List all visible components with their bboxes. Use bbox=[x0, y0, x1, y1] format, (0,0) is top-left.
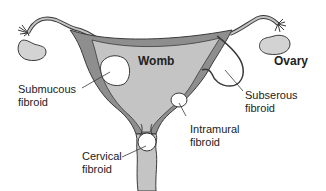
label-subserous-line2: fibroid bbox=[245, 102, 275, 114]
label-subserous-line1: Subserous bbox=[245, 89, 298, 101]
label-ovary: Ovary bbox=[274, 55, 308, 67]
label-intramural-line2: fibroid bbox=[190, 136, 220, 148]
right-ovary bbox=[260, 35, 290, 54]
submucous-fibroid bbox=[101, 56, 130, 86]
label-submucous-line1: Submucous bbox=[18, 83, 76, 95]
fibroid-diagram: Womb Ovary Submucous fibroid Subserous f… bbox=[0, 0, 326, 191]
left-ovary bbox=[18, 40, 46, 60]
label-submucous-line2: fibroid bbox=[18, 96, 48, 108]
label-intramural-line1: Intramural bbox=[190, 123, 240, 135]
intramural-fibroid bbox=[171, 93, 187, 107]
label-womb: Womb bbox=[138, 55, 174, 67]
label-cervical-line2: fibroid bbox=[82, 163, 112, 175]
label-cervical-line1: Cervical bbox=[82, 150, 122, 162]
